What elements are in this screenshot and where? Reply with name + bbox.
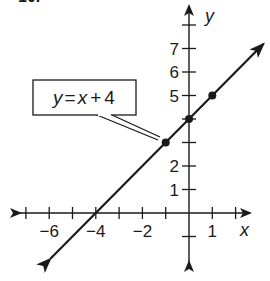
line-plot: [50, 44, 263, 259]
data-point: [185, 115, 193, 123]
y-tick-label: 1: [170, 181, 179, 200]
y-tick-label: 2: [170, 157, 179, 176]
data-point: [162, 139, 170, 147]
coordinate-graph: −6−4−21 12567 x y y=x+4: [0, 0, 270, 281]
y-tick-label: 6: [170, 63, 179, 82]
callout-tail: [97, 115, 160, 140]
x-tick-labels: −6−4−21: [40, 222, 218, 241]
y-axis-label: y: [203, 6, 215, 26]
x-tick-label: −2: [133, 222, 152, 241]
equation-label: y=x+4: [51, 87, 115, 108]
x-tick-label: 1: [208, 222, 217, 241]
y-tick-label: 7: [170, 40, 179, 59]
x-tick-label: −4: [86, 222, 105, 241]
y-tick-labels: 12567: [170, 40, 179, 200]
graph-line: [50, 44, 263, 259]
x-axis-label: x: [239, 220, 250, 240]
equation-callout: y=x+4: [33, 80, 160, 140]
data-point: [208, 92, 216, 100]
x-tick-label: −6: [40, 222, 59, 241]
y-tick-label: 5: [170, 87, 179, 106]
